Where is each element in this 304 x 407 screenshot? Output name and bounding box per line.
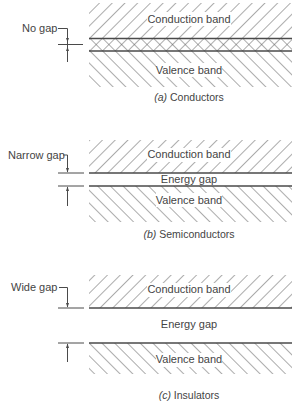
band-gap-diagram: Conduction band Valence band No gap (a) … (0, 0, 304, 407)
caption-conductors: (a) Conductors (154, 91, 223, 103)
conduction-band-label: Conduction band (147, 148, 230, 160)
wide-gap-label: Wide gap (11, 281, 57, 293)
panel-insulators: Conduction band Energy gap Valence band … (11, 275, 292, 401)
valence-band-label: Valence band (156, 194, 222, 206)
arrow-down-icon (66, 303, 69, 308)
valence-band-label: Valence band (156, 353, 222, 365)
panel-conductors: Conduction band Valence band No gap (a) … (22, 3, 292, 103)
arrow-down-icon (66, 38, 69, 42)
energy-gap-label: Energy gap (161, 173, 217, 185)
arrow-up-icon (66, 47, 69, 51)
no-gap-label: No gap (22, 22, 57, 34)
conduction-band-label: Conduction band (147, 283, 230, 295)
caption-insulators: (c) Insulators (159, 389, 220, 401)
energy-gap-label: Energy gap (161, 318, 217, 330)
gap-leader-line (59, 288, 68, 308)
arrow-up-icon (66, 187, 69, 192)
valence-band (89, 38, 292, 87)
valence-band-label: Valence band (156, 64, 222, 76)
conduction-band-label: Conduction band (147, 13, 230, 25)
narrow-gap-label: Narrow gap (8, 149, 65, 161)
arrow-down-icon (66, 168, 69, 173)
caption-semiconductors: (b) Semiconductors (143, 228, 234, 240)
arrow-up-icon (66, 344, 69, 349)
panel-semiconductors: Conduction band Energy gap Valence band … (8, 140, 292, 240)
gap-leader-line (58, 29, 68, 63)
